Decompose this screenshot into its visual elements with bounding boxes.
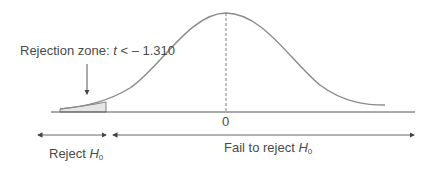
axis-zero-tick: 0 — [222, 114, 229, 129]
fail-to-reject-h0-label: Fail to reject H0 — [224, 140, 312, 156]
distribution-curve — [60, 13, 385, 109]
rejection-region-shade — [60, 102, 106, 112]
reject-h0-label: Reject H0 — [49, 146, 103, 162]
t-distribution-diagram: Rejection zone: t < – 1.310 0 Reject H0 … — [0, 0, 433, 173]
rejection-zone-label: Rejection zone: t < – 1.310 — [20, 43, 175, 58]
